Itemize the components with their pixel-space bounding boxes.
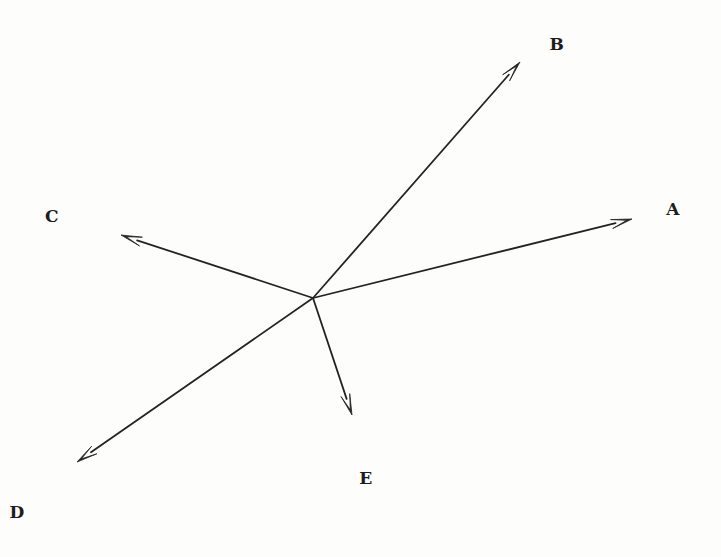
vector-shaft-e [313, 298, 347, 399]
vector-diagram-canvas: ABCDE [0, 0, 721, 557]
vector-label-e: E [359, 470, 372, 487]
vector-arrowhead-d [77, 446, 97, 462]
vector-label-b: B [550, 36, 565, 53]
vector-shaft-c [137, 240, 313, 298]
vector-shaft-b [313, 75, 509, 298]
vector-label-d: D [9, 504, 24, 521]
vector-lines-group [91, 75, 616, 453]
vector-shaft-a [313, 223, 615, 298]
vector-label-a: A [666, 201, 680, 218]
vector-label-c: C [45, 208, 59, 225]
vector-shaft-d [91, 298, 313, 452]
vector-arrowheads-group [77, 62, 632, 462]
